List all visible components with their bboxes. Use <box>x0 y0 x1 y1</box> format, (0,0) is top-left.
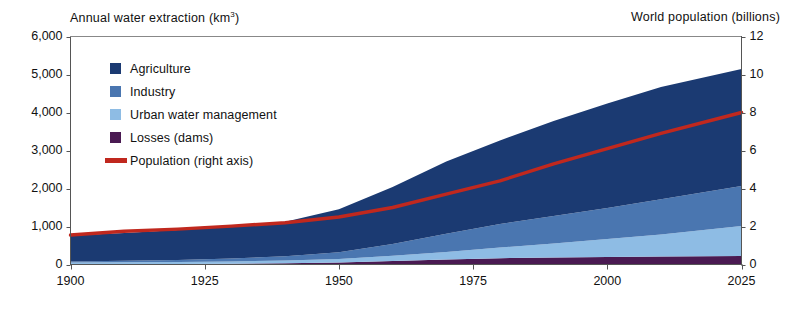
x-axis-tick-label: 1950 <box>309 274 369 288</box>
x-axis-tick-label: 2000 <box>577 274 637 288</box>
y-axis-right-tick-label: 10 <box>750 67 780 81</box>
y-axis-right-tick-label: 8 <box>750 105 780 119</box>
x-axis-tick-label: 1925 <box>175 274 235 288</box>
y-axis-right-tick-label: 4 <box>750 181 780 195</box>
x-axis-tick-label: 2025 <box>712 274 772 288</box>
legend-item[interactable]: Industry <box>110 80 277 103</box>
y-axis-left-tick-label: 3,000 <box>15 143 63 157</box>
x-axis-tick-label: 1975 <box>443 274 503 288</box>
legend-item-label: Industry <box>130 85 175 99</box>
y-axis-left-tick-label: 4,000 <box>15 105 63 119</box>
legend-square-swatch-icon <box>110 109 121 120</box>
y-axis-left-tick-label: 2,000 <box>15 181 63 195</box>
legend-item[interactable]: Population (right axis) <box>110 149 277 172</box>
legend-item[interactable]: Agriculture <box>110 57 277 80</box>
legend-item-label: Losses (dams) <box>130 131 213 145</box>
y-axis-right-tick-label: 12 <box>750 29 780 43</box>
legend-line-swatch-icon <box>105 158 127 163</box>
legend-square-swatch-icon <box>110 132 121 143</box>
legend-item[interactable]: Losses (dams) <box>110 126 277 149</box>
y-axis-left-tick-label: 5,000 <box>15 67 63 81</box>
legend-square-swatch-icon <box>110 63 121 74</box>
chart-legend: AgricultureIndustryUrban water managemen… <box>110 57 277 172</box>
water-extraction-chart: Annual water extraction (km3) World popu… <box>0 0 792 319</box>
y-axis-right-tick-label: 0 <box>750 257 780 271</box>
y-axis-left-tick-label: 1,000 <box>15 219 63 233</box>
legend-square-swatch-icon <box>110 86 121 97</box>
legend-item[interactable]: Urban water management <box>110 103 277 126</box>
y-axis-right-tick-label: 6 <box>750 143 780 157</box>
y-axis-left-tick-label: 0 <box>15 257 63 271</box>
legend-item-label: Population (right axis) <box>130 154 253 168</box>
legend-item-label: Agriculture <box>130 62 191 76</box>
legend-item-label: Urban water management <box>130 108 277 122</box>
y-axis-right-tick-label: 2 <box>750 219 780 233</box>
y-axis-left-tick-label: 6,000 <box>15 29 63 43</box>
x-axis-tick-label: 1900 <box>41 274 101 288</box>
